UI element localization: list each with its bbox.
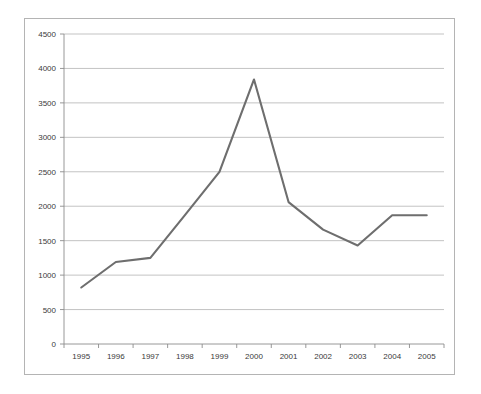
y-axis-tick-label: 2500 — [38, 168, 56, 177]
y-axis-tick-label: 2000 — [38, 202, 56, 211]
line-chart: 050010001500200025003000350040004500 199… — [0, 0, 481, 394]
data-series-line — [81, 79, 426, 287]
y-axis-ticks — [60, 34, 64, 344]
x-axis-tick-label: 2003 — [349, 352, 367, 361]
y-axis-tick-label: 4000 — [38, 64, 56, 73]
x-axis-tick-label: 2000 — [245, 352, 263, 361]
y-axis-tick-label: 3500 — [38, 99, 56, 108]
x-axis-ticks — [64, 344, 444, 348]
gridlines — [64, 34, 444, 310]
x-axis-tick-label: 2005 — [418, 352, 436, 361]
y-axis-tick-label: 1500 — [38, 237, 56, 246]
y-axis-tick-label: 4500 — [38, 30, 56, 39]
x-axis-tick-label: 2004 — [383, 352, 401, 361]
x-axis-tick-label: 1995 — [72, 352, 90, 361]
y-axis-tick-labels: 050010001500200025003000350040004500 — [38, 30, 56, 349]
x-axis-tick-label: 1997 — [141, 352, 159, 361]
y-axis-tick-label: 500 — [43, 306, 57, 315]
x-axis-tick-labels: 1995199619971998199920002001200220032004… — [72, 352, 436, 361]
y-axis-tick-label: 3000 — [38, 133, 56, 142]
x-axis-tick-label: 2001 — [280, 352, 298, 361]
chart-page: 050010001500200025003000350040004500 199… — [0, 0, 481, 394]
x-axis-tick-label: 2002 — [314, 352, 332, 361]
x-axis-tick-label: 1999 — [211, 352, 229, 361]
y-axis-tick-label: 0 — [52, 340, 57, 349]
x-axis-tick-label: 1998 — [176, 352, 194, 361]
y-axis-tick-label: 1000 — [38, 271, 56, 280]
x-axis-tick-label: 1996 — [107, 352, 125, 361]
